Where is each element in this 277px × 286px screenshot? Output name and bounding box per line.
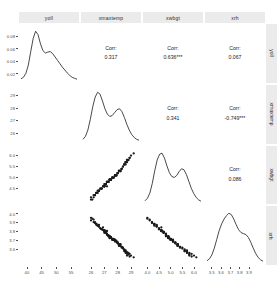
density-panel-xmaxtemp	[80, 84, 142, 145]
ytick-xwbgt-1: 5.5	[0, 164, 15, 169]
corr-cell-xmaxtemp-xrh: Corr:-0.749***	[204, 84, 266, 145]
ytick-mark	[16, 133, 18, 134]
corr-value: 0.317	[105, 53, 118, 63]
ytick-xmaxtemp-0: 29	[0, 93, 15, 98]
xtick-xrh-0: 3.5	[209, 270, 215, 275]
xtick-mark	[249, 267, 250, 269]
column-header-yoll: yoll	[19, 12, 79, 23]
column-header-label: xmaxtemp	[99, 15, 124, 21]
xtick-mark	[41, 267, 42, 269]
density-panel-xwbgt	[142, 145, 204, 206]
xtick-yoll-1: 45	[39, 270, 44, 275]
scatterplot-matrix: yollxmaxtempxwbgtxrhyollxmaxtempxwbgtxrh…	[0, 0, 277, 286]
ytick-xrh-3: 3.7	[0, 238, 15, 243]
corr-cell-xwbgt-xrh: Corr:0.086	[204, 145, 266, 206]
xtick-xwbgt-3: 5.5	[179, 270, 185, 275]
column-header-xrh: xrh	[205, 12, 265, 23]
ytick-xwbgt-2: 5.0	[0, 175, 15, 180]
ytick-xrh-4: 3.6	[0, 246, 15, 251]
ytick-yoll-1: 0.06	[0, 46, 15, 51]
ytick-xwbgt-0: 6.0	[0, 153, 15, 158]
corr-label: Corr:	[167, 104, 179, 114]
ytick-mark	[16, 155, 18, 156]
xtick-mark	[170, 267, 171, 269]
xtick-mark	[211, 267, 212, 269]
ytick-yoll-0: 0.08	[0, 34, 15, 39]
ytick-mark	[16, 231, 18, 232]
column-header-xmaxtemp: xmaxtemp	[81, 12, 141, 23]
ytick-mark	[16, 95, 18, 96]
corr-cell-yoll-xmaxtemp: Corr:0.317	[80, 23, 142, 84]
corr-label: Corr:	[229, 104, 241, 114]
scatter-panel-xwbgt-vs-yoll	[18, 145, 80, 206]
column-header-label: xrh	[231, 15, 239, 21]
corr-label: Corr:	[229, 44, 241, 54]
corr-cell-xmaxtemp-xwbgt: Corr:0.341	[142, 84, 204, 145]
ytick-mark	[16, 213, 18, 214]
corr-value: 0.636***	[163, 53, 182, 63]
corr-label: Corr:	[105, 44, 117, 54]
ytick-mark	[16, 61, 18, 62]
ytick-mark	[16, 188, 18, 189]
xtick-mark	[194, 267, 195, 269]
xtick-mark	[131, 267, 132, 269]
ytick-mark	[16, 166, 18, 167]
ytick-mark	[16, 73, 18, 74]
column-header-xwbgt: xwbgt	[143, 12, 203, 23]
xtick-mark	[27, 267, 28, 269]
row-header-xmaxtemp: xmaxtemp	[266, 85, 277, 144]
row-header-yoll: yoll	[266, 24, 277, 83]
xtick-mark	[221, 267, 222, 269]
xtick-yoll-2: 50	[54, 270, 59, 275]
xtick-mark	[230, 267, 231, 269]
corr-cell-yoll-xwbgt: Corr:0.636***	[142, 23, 204, 84]
xtick-xrh-1: 3.6	[218, 270, 224, 275]
xtick-mark	[91, 267, 92, 269]
xtick-mark	[117, 267, 118, 269]
xtick-xmaxtemp-1: 27	[102, 270, 107, 275]
row-header-xwbgt: xwbgt	[266, 146, 277, 205]
ytick-xmaxtemp-3: 26	[0, 130, 15, 135]
corr-cell-yoll-xrh: Corr:0.067	[204, 23, 266, 84]
xtick-xrh-4: 3.9	[246, 270, 252, 275]
xtick-xmaxtemp-0: 26	[89, 270, 94, 275]
ytick-mark	[16, 177, 18, 178]
xtick-xmaxtemp-3: 29	[129, 270, 134, 275]
corr-label: Corr:	[229, 165, 241, 175]
ytick-xmaxtemp-2: 27	[0, 118, 15, 123]
density-panel-xrh	[204, 205, 266, 266]
corr-value: 0.086	[229, 175, 242, 185]
scatter-panel-xrh-vs-yoll	[18, 205, 80, 266]
xtick-mark	[104, 267, 105, 269]
corr-label: Corr:	[167, 44, 179, 54]
ytick-xrh-1: 3.9	[0, 220, 15, 225]
ytick-mark	[16, 36, 18, 37]
xtick-mark	[71, 267, 72, 269]
corr-value: -0.749***	[225, 114, 246, 124]
ytick-mark	[16, 108, 18, 109]
ytick-xwbgt-3: 4.5	[0, 186, 15, 191]
ytick-mark	[16, 240, 18, 241]
column-header-label: xwbgt	[166, 15, 180, 21]
ytick-yoll-3: 0.02	[0, 71, 15, 76]
density-panel-yoll	[18, 23, 80, 84]
xtick-yoll-3: 55	[69, 270, 74, 275]
corr-value: 0.067	[229, 53, 242, 63]
xtick-mark	[56, 267, 57, 269]
xtick-xmaxtemp-2: 28	[115, 270, 120, 275]
ytick-xrh-0: 4.0	[0, 211, 15, 216]
xtick-xrh-3: 3.8	[237, 270, 243, 275]
scatter-panel-xrh-vs-xmaxtemp	[80, 205, 142, 266]
ytick-xmaxtemp-1: 28	[0, 105, 15, 110]
xtick-xwbgt-4: 6.0	[191, 270, 197, 275]
scatter-panel-xmaxtemp-vs-yoll	[18, 84, 80, 145]
row-header-label: yoll	[268, 50, 274, 58]
xtick-xrh-2: 3.7	[227, 270, 233, 275]
ytick-mark	[16, 48, 18, 49]
scatter-panel-xwbgt-vs-xmaxtemp	[80, 145, 142, 206]
xtick-yoll-0: 40	[25, 270, 30, 275]
ytick-mark	[16, 120, 18, 121]
row-header-label: xrh	[268, 232, 274, 239]
xtick-xwbgt-1: 4.5	[156, 270, 162, 275]
corr-value: 0.341	[167, 114, 180, 124]
